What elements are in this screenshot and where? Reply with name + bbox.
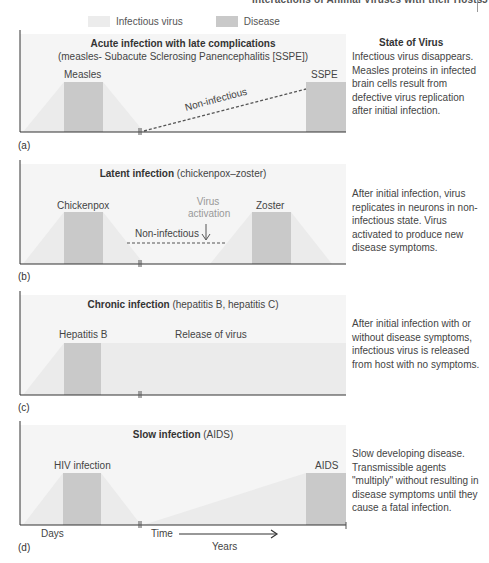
event-sspe: SSPE (311, 69, 338, 80)
legend-infectious-virus: Infectious virus (116, 16, 183, 27)
state-of-virus-heading: State of Virus (379, 37, 443, 48)
event-measles: Measles (64, 69, 101, 80)
event-hepatitis-b: Hepatitis B (59, 329, 107, 340)
panel-a-title: Acute infection with late complications (20, 38, 346, 49)
panel-b-description: After initial infection, virus replicate… (352, 187, 487, 255)
event-hiv-infection: HIV infection (54, 460, 111, 471)
event-aids: AIDS (315, 460, 338, 471)
legend-disease: Disease (244, 16, 280, 27)
event-zoster: Zoster (256, 200, 284, 211)
panel-acute-infection: Acute infection with late complications … (20, 34, 346, 134)
panel-b-title: Latent infection (chickenpox–zoster) (20, 168, 346, 179)
panel-chronic-infection: Chronic infection (hepatitis B, hepatiti… (20, 295, 346, 395)
panel-latent-infection: Latent infection (chickenpox–zoster) Chi… (20, 164, 346, 264)
axis-years-label: Years (212, 541, 237, 552)
panel-a-label: (a) (18, 140, 30, 151)
panel-d-title: Slow infection (AIDS) (20, 429, 346, 440)
disease-swatch (216, 16, 238, 27)
axis-time-label: Time (151, 528, 173, 539)
panel-c-diagram (20, 295, 346, 395)
page-header-title: Interactions of Animal Viruses with thei… (252, 0, 483, 5)
panel-d-label: (d) (18, 542, 30, 553)
header-divider (477, 0, 478, 12)
axis-days-label: Days (41, 528, 64, 539)
panel-c-label: (c) (18, 402, 30, 413)
panel-a-description: Infectious virus disappears. Measles pro… (352, 50, 487, 118)
panel-b-diagram (20, 164, 346, 264)
panel-c-title: Chronic infection (hepatitis B, hepatiti… (20, 299, 346, 310)
event-chickenpox: Chickenpox (57, 200, 109, 211)
virus-activation-label: Virus activation (188, 196, 228, 220)
page-number: 5 (482, 0, 488, 5)
panel-slow-infection: Slow infection (AIDS) HIV infection AIDS… (20, 425, 346, 525)
non-infectious-label: Non-infectious (135, 228, 199, 239)
panel-c-description: After initial infection with or without … (352, 317, 487, 371)
panel-d-description: Slow developing disease. Transmissible a… (352, 447, 487, 515)
infectious-virus-swatch (88, 16, 110, 27)
panel-b-label: (b) (18, 271, 30, 282)
panel-d-diagram (20, 425, 346, 525)
panel-a-diagram (20, 34, 346, 134)
legend: Infectious virus Disease (88, 16, 280, 27)
release-of-virus-label: Release of virus (175, 329, 247, 340)
panel-a-subtitle: (measles- Subacute Sclerosing Panencepha… (20, 51, 346, 62)
